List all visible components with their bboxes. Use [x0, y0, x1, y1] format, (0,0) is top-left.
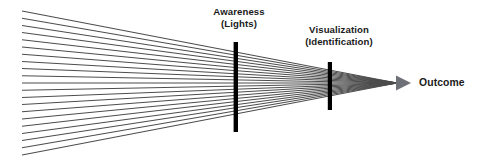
- awareness-label: Awareness (Lights): [196, 6, 282, 29]
- ray-line: [22, 83, 397, 148]
- ray-line: [22, 83, 397, 141]
- awareness-label-line1: Awareness: [213, 6, 264, 17]
- visualization-label-line1: Visualization: [309, 24, 369, 35]
- visualization-label: Visualization (Identification): [283, 24, 395, 47]
- visualization-label-line2: (Identification): [283, 36, 395, 48]
- awareness-label-line2: (Lights): [196, 18, 282, 30]
- visualization-gate-bar: [328, 62, 332, 110]
- outcome-arrow-icon: [396, 76, 411, 91]
- ray-line: [22, 54, 397, 83]
- outcome-label: Outcome: [419, 77, 465, 90]
- funnel-diagram: Awareness (Lights) Visualization (Identi…: [0, 0, 487, 163]
- ray-line: [22, 83, 397, 112]
- awareness-gate-bar: [234, 42, 238, 132]
